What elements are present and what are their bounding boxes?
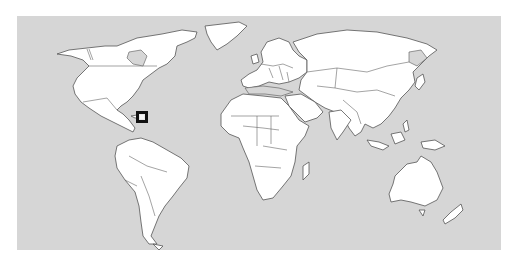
- north-america: [57, 30, 197, 132]
- british-isles: [251, 54, 259, 64]
- location-marker[interactable]: [136, 111, 148, 123]
- world-map-svg: [17, 16, 501, 250]
- world-map[interactable]: [17, 16, 501, 250]
- borneo: [391, 132, 405, 144]
- greenland: [205, 22, 247, 50]
- new-zealand: [443, 204, 463, 224]
- mediterranean-sea: [245, 86, 293, 96]
- south-america: [115, 138, 189, 244]
- sumatra-java: [367, 140, 389, 150]
- australia: [389, 156, 443, 206]
- madagascar: [303, 162, 309, 180]
- new-guinea: [421, 140, 445, 150]
- tierra-del-fuego: [153, 244, 163, 250]
- philippines: [403, 120, 409, 132]
- tasmania: [419, 210, 425, 216]
- japan: [415, 74, 425, 90]
